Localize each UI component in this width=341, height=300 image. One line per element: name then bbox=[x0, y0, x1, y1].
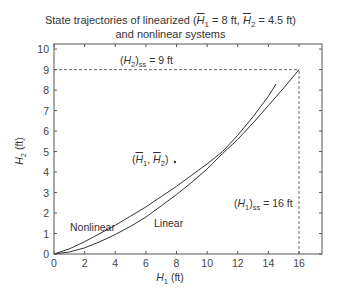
y-tick-label: 7 bbox=[43, 105, 49, 117]
x-tick-label: 6 bbox=[143, 257, 149, 269]
axis-ticks: 0246810121416012345678910 bbox=[37, 43, 322, 269]
x-axis-label: H1 (ft) bbox=[156, 271, 184, 286]
x-tick-label: 14 bbox=[263, 257, 275, 269]
y-tick-label: 0 bbox=[43, 248, 49, 260]
y-tick-label: 10 bbox=[37, 43, 49, 55]
y-tick-label: 5 bbox=[43, 146, 49, 158]
x-tick-label: 2 bbox=[82, 257, 88, 269]
x-tick-label: 4 bbox=[112, 257, 118, 269]
y-tick-label: 1 bbox=[43, 228, 49, 240]
y-axis-label: H2 (ft) bbox=[13, 137, 28, 165]
x-tick-label: 10 bbox=[201, 257, 213, 269]
x-tick-label: 8 bbox=[174, 257, 180, 269]
operating-point-marker bbox=[174, 161, 176, 163]
y-tick-label: 3 bbox=[43, 187, 49, 199]
y-tick-label: 4 bbox=[43, 166, 49, 178]
label-nonlinear: Nonlinear bbox=[70, 221, 115, 233]
y-tick-label: 9 bbox=[43, 64, 49, 76]
x-tick-label: 12 bbox=[232, 257, 244, 269]
label-linear: Linear bbox=[154, 217, 184, 229]
y-tick-label: 8 bbox=[43, 84, 49, 96]
y-tick-label: 2 bbox=[43, 207, 49, 219]
annotation-operating-point: (H1, H2) bbox=[132, 153, 168, 168]
chart-plot: 0246810121416012345678910 (H2)ss = 9 ft … bbox=[0, 0, 341, 300]
y-tick-label: 6 bbox=[43, 125, 49, 137]
annotation-h2ss: (H2)ss = 9 ft bbox=[120, 54, 173, 69]
x-tick-label: 0 bbox=[51, 257, 57, 269]
annotation-h1ss: (H1)ss = 16 ft bbox=[234, 197, 293, 212]
x-tick-label: 16 bbox=[293, 257, 305, 269]
